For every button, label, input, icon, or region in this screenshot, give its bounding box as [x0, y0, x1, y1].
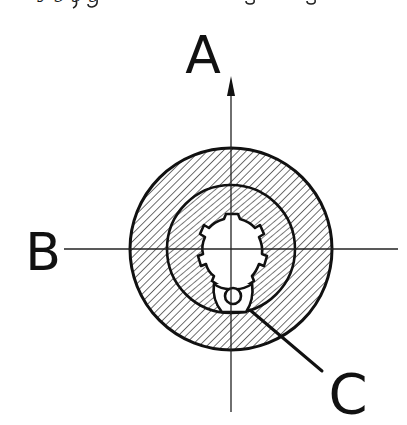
arrow-up-icon	[227, 76, 235, 96]
pin	[225, 288, 241, 304]
top-caption-fragment: y g g g	[37, 0, 315, 8]
caption-fragment-text: y g g g	[37, 0, 100, 2]
label-c: C	[328, 361, 367, 425]
diagram-canvas: y g g g	[0, 0, 407, 425]
label-b: B	[25, 222, 61, 282]
label-a: A	[185, 25, 221, 85]
